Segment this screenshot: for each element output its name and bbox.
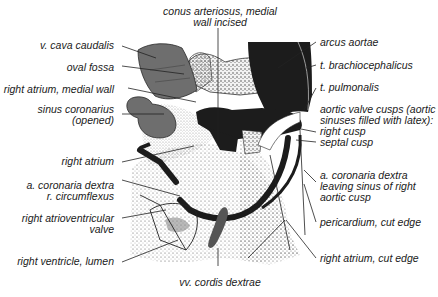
label-conus-arteriosus: conus arteriosus, medial wall incised [150,6,290,28]
label-pericardium-cut-edge: pericardium, cut edge [320,217,421,228]
label-brachiocephalicus: t. brachiocephalicus [320,60,413,71]
label-oval-fossa: oval fossa [67,62,114,73]
label-vena-cava-caudalis: v. cava caudalis [40,40,114,51]
label-right-av-valve: right atrioventricular valve [22,213,114,235]
label-vv-cordis-dextrae: vv. cordis dextrae [150,277,290,288]
label-coronaria-dextra-circumflexus: a. coronaria dextra r. circumflexus [26,180,114,202]
label-sinus-coronarius: sinus coronarius (opened) [38,104,114,126]
label-pulmonalis: t. pulmonalis [320,82,379,93]
label-coronaria-dextra-leaving: a. coronaria dextra leaving sinus of rig… [320,170,416,203]
vena-cava-caudalis-shape [138,44,197,99]
anatomical-figure: conus arteriosus, medial wall incised v.… [0,0,438,297]
sinus-coronarius-shape [127,97,176,138]
label-right-atrium-medial-wall: right atrium, medial wall [4,84,114,95]
label-right-atrium: right atrium [61,156,114,167]
label-right-ventricle-lumen: right ventricle, lumen [17,256,114,267]
label-right-atrium-cut-edge: right atrium, cut edge [320,253,419,264]
label-arcus-aortae: arcus aortae [320,37,378,48]
label-aortic-valve-cusps: aortic valve cusps (aortic sinuses fille… [320,104,436,148]
